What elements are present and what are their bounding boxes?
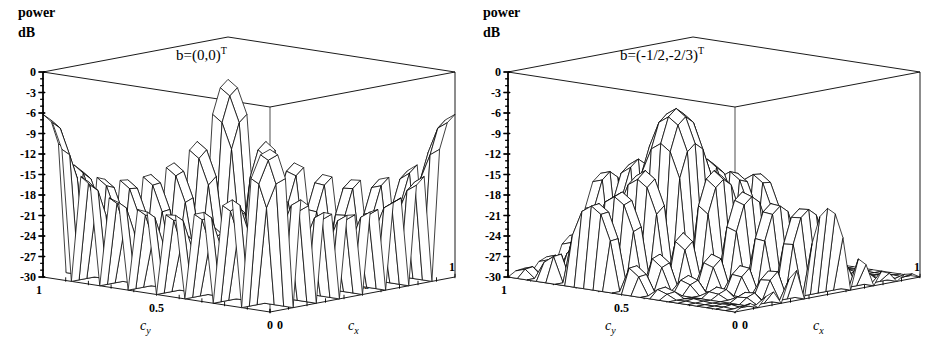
surface-plot-left: 0-3-6-9-12-15-18-21-24-27-3010.5000.51: [0, 0, 466, 351]
z-tick-label: -18: [485, 188, 501, 202]
plot-panel-left: 0-3-6-9-12-15-18-21-24-27-3010.5000.51 p…: [0, 0, 466, 351]
panel-title-left: b=(0,0)T: [176, 46, 227, 63]
z-tick-label: -30: [485, 270, 501, 284]
cx-tick-label: 0: [277, 318, 283, 332]
z-axis-label-line2: dB: [483, 26, 500, 40]
z-tick-label: -30: [20, 270, 36, 284]
surface-mesh: [508, 109, 920, 312]
z-tick-label: -18: [20, 188, 36, 202]
cy-tick-label: 1: [501, 283, 507, 297]
cx-axis-title-right: cx: [813, 319, 824, 336]
panel-title-right-text: b=(-1/2,-2/3): [620, 47, 698, 63]
z-axis-label-line1: power: [483, 6, 520, 20]
z-tick-label: -9: [491, 127, 501, 141]
cx-axis-subscript: x: [819, 325, 823, 336]
z-tick-label: -12: [20, 147, 36, 161]
z-tick-label: -21: [485, 209, 501, 223]
cy-tick-label: 0: [732, 318, 738, 332]
z-tick-label: -21: [20, 209, 36, 223]
panel-title-left-superscript: T: [221, 45, 227, 56]
z-tick-label: -27: [485, 250, 501, 264]
z-tick-label: -15: [485, 168, 501, 182]
cy-axis-subscript: y: [611, 325, 615, 336]
cx-tick-label: 1: [914, 260, 920, 274]
cy-axis-title-right: cy: [605, 319, 616, 336]
cy-tick-label: 1: [36, 283, 42, 297]
cy-tick-label: 0.5: [614, 301, 629, 315]
z-tick-label: -6: [491, 106, 501, 120]
z-tick-label: -15: [20, 168, 36, 182]
cy-axis-title-left: cy: [140, 319, 151, 336]
z-tick-label: -27: [20, 250, 36, 264]
z-tick-label: -9: [26, 127, 36, 141]
cy-axis-subscript: y: [146, 325, 150, 336]
panel-title-left-text: b=(0,0): [176, 47, 221, 63]
z-axis-label-line1: power: [18, 6, 55, 20]
z-tick-label: -24: [485, 229, 501, 243]
figure-root: 0-3-6-9-12-15-18-21-24-27-3010.5000.51 p…: [0, 0, 931, 351]
cx-tick-label: 0: [742, 318, 748, 332]
z-tick-label: -3: [26, 86, 36, 100]
z-axis-label-line2: dB: [18, 26, 35, 40]
z-tick-label: -24: [20, 229, 36, 243]
panel-title-right-superscript: T: [698, 45, 704, 56]
cy-tick-label: 0.5: [149, 301, 164, 315]
cx-axis-subscript: x: [354, 325, 358, 336]
z-tick-label: -6: [26, 106, 36, 120]
z-tick-label: 0: [495, 65, 501, 79]
plot-panel-right: 0-3-6-9-12-15-18-21-24-27-3010.5000.51 p…: [465, 0, 931, 351]
z-tick-label: -12: [485, 147, 501, 161]
surface-mesh: [43, 79, 455, 307]
cx-tick-label: 1: [449, 260, 455, 274]
z-tick-label: 0: [30, 65, 36, 79]
z-tick-label: -3: [491, 86, 501, 100]
cy-tick-label: 0: [267, 318, 273, 332]
cx-axis-title-left: cx: [348, 319, 359, 336]
panel-title-right: b=(-1/2,-2/3)T: [620, 46, 704, 63]
